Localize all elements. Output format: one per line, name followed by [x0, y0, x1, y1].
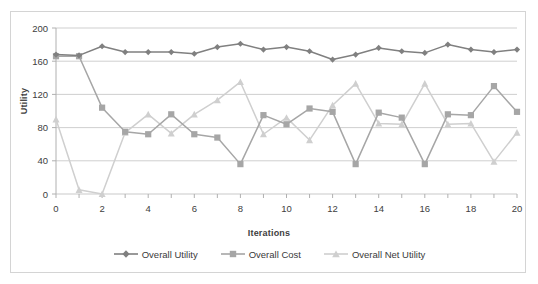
data-point-marker [352, 80, 359, 87]
data-point-marker [330, 56, 336, 62]
data-point-marker [353, 51, 359, 57]
legend-marker-diamond-icon [113, 248, 139, 260]
data-point-marker [468, 112, 474, 118]
data-point-marker [237, 41, 243, 47]
x-axis-tick-label: 16 [420, 203, 431, 214]
data-point-marker [514, 46, 520, 52]
x-axis-tick-label: 10 [281, 203, 292, 214]
data-point-marker [445, 42, 451, 48]
series-line [56, 56, 517, 164]
y-axis-tick-label: 0 [43, 189, 48, 200]
data-point-marker [283, 121, 289, 127]
data-point-marker [168, 49, 174, 55]
chart-legend: Overall Utility Overall Cost Overall Net… [0, 248, 538, 260]
data-point-marker [330, 109, 336, 115]
data-point-marker [191, 111, 198, 118]
x-axis-tick-label: 20 [512, 203, 523, 214]
data-point-marker [468, 46, 474, 52]
data-point-marker [399, 48, 405, 54]
data-point-marker [99, 43, 105, 49]
y-axis-tick-label: 200 [32, 23, 48, 34]
series-overall-utility [53, 41, 520, 63]
data-point-marker [99, 105, 105, 111]
legend-label: Overall Net Utility [352, 249, 425, 260]
data-point-marker [376, 110, 382, 116]
data-point-marker [237, 78, 244, 85]
x-axis-tick-label: 6 [192, 203, 197, 214]
data-point-marker [421, 80, 428, 87]
data-point-marker [306, 48, 312, 54]
legend-label: Overall Utility [142, 249, 198, 260]
x-axis-tick-label: 14 [373, 203, 384, 214]
data-point-marker [283, 114, 290, 121]
data-point-marker [283, 44, 289, 50]
series-line [56, 82, 517, 194]
x-axis-tick-label: 4 [146, 203, 151, 214]
x-axis-tick-label: 8 [238, 203, 243, 214]
data-point-marker [191, 51, 197, 57]
series-overall-cost [53, 53, 520, 167]
data-point-marker [491, 83, 497, 89]
legend-item-overall-net-utility[interactable]: Overall Net Utility [323, 248, 425, 260]
x-axis-tick-label: 0 [53, 203, 58, 214]
data-point-marker [191, 131, 197, 137]
data-point-marker [376, 45, 382, 51]
data-point-marker [145, 111, 152, 118]
x-axis-tick-label: 2 [99, 203, 104, 214]
data-point-marker [168, 111, 174, 117]
y-axis-tick-label: 120 [32, 89, 48, 100]
data-point-marker [214, 44, 220, 50]
y-axis-tick-label: 80 [37, 122, 48, 133]
y-axis-tick-label: 160 [32, 56, 48, 67]
legend-marker-square-icon [220, 248, 246, 260]
data-point-marker [445, 111, 451, 117]
data-point-marker [514, 109, 520, 115]
data-point-marker [491, 49, 497, 55]
series-overall-net-utility [53, 78, 521, 197]
x-axis-title: Iterations [0, 228, 538, 238]
data-point-marker [237, 161, 243, 167]
data-point-marker [260, 112, 266, 118]
data-point-marker [53, 116, 60, 123]
legend-marker-triangle-icon [323, 248, 349, 260]
data-point-marker [399, 115, 405, 121]
x-axis-tick-label: 12 [327, 203, 338, 214]
data-point-marker [122, 129, 128, 135]
x-axis-tick-label: 18 [466, 203, 477, 214]
data-point-marker [145, 131, 151, 137]
data-point-marker [422, 50, 428, 56]
legend-item-overall-utility[interactable]: Overall Utility [113, 248, 198, 260]
data-point-marker [214, 134, 220, 140]
data-point-marker [260, 46, 266, 52]
data-point-marker [353, 161, 359, 167]
y-axis-tick-label: 40 [37, 155, 48, 166]
data-point-marker [306, 105, 312, 111]
chart-container: 0408012016020002468101214161820 Utility … [0, 0, 538, 284]
legend-item-overall-cost[interactable]: Overall Cost [220, 248, 301, 260]
data-point-marker [122, 49, 128, 55]
data-point-marker [514, 129, 521, 136]
legend-label: Overall Cost [249, 249, 301, 260]
data-point-marker [422, 161, 428, 167]
y-axis-title: Utility [19, 71, 29, 131]
data-point-marker [145, 49, 151, 55]
